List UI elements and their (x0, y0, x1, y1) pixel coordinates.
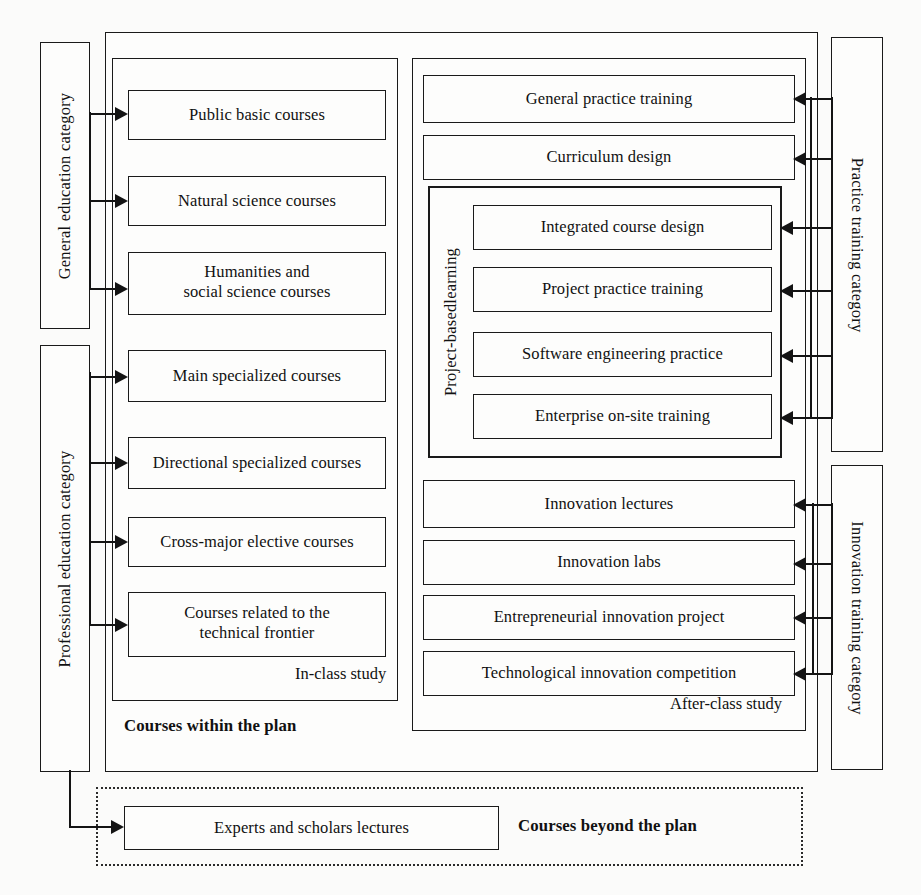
connector-arrow-line-technical-frontier (89, 624, 117, 626)
connector-practice-training-bus (810, 97, 812, 419)
category-general-education[interactable]: General education category (40, 42, 90, 329)
course-integrated-course-design[interactable]: Integrated course design (473, 205, 772, 250)
course-natural-science-courses[interactable]: Natural science courses (128, 176, 386, 226)
connector-arrow-line-main-specialized (89, 376, 117, 378)
connector-arrow-line-project-practice-training (793, 290, 833, 292)
category-practice-training[interactable]: Practice training category (831, 37, 883, 452)
connector-arrow-line-curriculum-design (806, 158, 833, 160)
course-public-basic-courses[interactable]: Public basic courses (128, 90, 386, 140)
arrowhead-integrated-course-design (780, 221, 793, 235)
course-courses-technical-frontier[interactable]: Courses related to the technical frontie… (128, 592, 386, 657)
category-practice-training-label: Practice training category (847, 157, 867, 332)
caption-courses-beyond-the-plan: Courses beyond the plan (518, 816, 697, 836)
connector-arrow-line-public-basic (89, 113, 117, 115)
category-innovation-training[interactable]: Innovation training category (831, 465, 883, 770)
connector-arrow-line-software-engineering-practice (793, 355, 833, 357)
connector-arrow-line-enterprise-on-site-training (793, 417, 833, 419)
course-software-engineering-practice[interactable]: Software engineering practice (473, 332, 772, 377)
arrowhead-enterprise-on-site-training (780, 411, 793, 425)
arrowhead-main-specialized-courses (115, 370, 128, 384)
arrowhead-software-engineering-practice (780, 349, 793, 363)
arrowhead-humanities-social-science (115, 282, 128, 296)
arrowhead-public-basic-courses (115, 107, 128, 121)
caption-courses-within-the-plan: Courses within the plan (124, 716, 296, 736)
course-technical-frontier-line2: technical frontier (135, 623, 379, 643)
connector-arrow-line-cross-major (89, 541, 117, 543)
category-professional-education[interactable]: Professional education category (40, 345, 90, 772)
arrowhead-innovation-labs (793, 557, 806, 571)
connector-innovation-training-bus (812, 503, 814, 675)
arrowhead-directional-specialized-courses (115, 456, 128, 470)
category-professional-education-label: Professional education category (55, 450, 75, 667)
connector-arrow-line-innovation-lectures (806, 504, 833, 506)
course-experts-and-scholars-lectures[interactable]: Experts and scholars lectures (124, 806, 499, 850)
course-enterprise-on-site-training[interactable]: Enterprise on-site training (473, 394, 772, 439)
connector-arrow-line-humanities (89, 288, 117, 290)
connector-practice-training-trunk (831, 97, 833, 419)
arrowhead-natural-science-courses (115, 194, 128, 208)
connector-arrow-line-innovation-labs (806, 563, 833, 565)
caption-after-class-study: After-class study (670, 694, 782, 714)
arrowhead-experts-and-scholars-lectures (111, 820, 124, 834)
arrowhead-entrepreneurial-innovation-project (793, 611, 806, 625)
caption-in-class-study: In-class study (295, 664, 386, 684)
course-project-practice-training[interactable]: Project practice training (473, 267, 772, 312)
course-humanities-social-science-courses[interactable]: Humanities and social science courses (128, 252, 386, 315)
course-innovation-lectures[interactable]: Innovation lectures (423, 480, 795, 528)
diagram-canvas: Courses within the plan General educatio… (0, 0, 921, 895)
course-technological-innovation-competition[interactable]: Technological innovation competition (423, 651, 795, 696)
connector-beyond-plan-drop-horizontal (69, 826, 117, 828)
course-curriculum-design[interactable]: Curriculum design (423, 135, 795, 180)
arrowhead-general-practice-training (793, 92, 806, 106)
course-cross-major-elective-courses[interactable]: Cross-major elective courses (128, 517, 386, 567)
category-general-education-label: General education category (55, 92, 75, 279)
connector-arrow-line-natural-science (89, 200, 117, 202)
course-humanities-line2: social science courses (135, 282, 379, 302)
connector-arrow-line-directional (89, 462, 117, 464)
arrowhead-cross-major-elective-courses (115, 535, 128, 549)
arrowhead-innovation-lectures (793, 498, 806, 512)
arrowhead-courses-technical-frontier (115, 618, 128, 632)
category-innovation-training-label: Innovation training category (847, 521, 867, 714)
course-general-practice-training[interactable]: General practice training (423, 75, 795, 123)
connector-beyond-plan-drop-vertical (69, 770, 71, 828)
arrowhead-project-practice-training (780, 284, 793, 298)
arrowhead-technological-innovation-competition (793, 667, 806, 681)
course-humanities-line1: Humanities and (135, 262, 379, 282)
course-main-specialized-courses[interactable]: Main specialized courses (128, 350, 386, 402)
course-technical-frontier-line1: Courses related to the (135, 603, 379, 623)
connector-professional-education-trunk (89, 372, 91, 625)
group-project-based-learning-label: Project-basedlearning (441, 248, 461, 396)
connector-arrow-line-entrepreneurial-innovation-project (806, 617, 833, 619)
course-innovation-labs[interactable]: Innovation labs (423, 540, 795, 585)
connector-arrow-line-technological-innovation-competition (806, 673, 833, 675)
course-directional-specialized-courses[interactable]: Directional specialized courses (128, 437, 386, 489)
connector-arrow-line-general-practice (806, 98, 833, 100)
connector-innovation-training-trunk (831, 503, 833, 675)
group-project-based-learning-label-wrap: Project-basedlearning (437, 192, 465, 452)
connector-arrow-line-integrated-course-design (793, 227, 833, 229)
arrowhead-curriculum-design (793, 152, 806, 166)
course-entrepreneurial-innovation-project[interactable]: Entrepreneurial innovation project (423, 595, 795, 640)
